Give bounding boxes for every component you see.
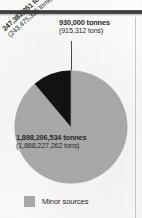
pie-chart: [14, 70, 128, 184]
callout-top-tons: (915,312 tons): [59, 27, 110, 35]
callout-rotated-second: 247,382,351 tonnes (243,475,325 tons): [1, 0, 58, 39]
pie-center-label: 1,898,206,534 tonnes (1,868,227,262 tons…: [16, 134, 87, 150]
legend-swatch-minor-sources: [24, 196, 35, 207]
chart-figure: 930,000 tonnes (915,312 tons) 247,382,35…: [0, 0, 142, 218]
chart-legend: Minor sources: [24, 196, 88, 207]
callout-leader-line: [71, 41, 72, 71]
center-label-tons: (1,868,227,262 tons): [16, 142, 87, 150]
right-column-rule: [135, 17, 136, 218]
legend-label-minor-sources: Minor sources: [42, 197, 88, 206]
callout-top-minor: 930,000 tonnes (915,312 tons): [59, 19, 110, 35]
